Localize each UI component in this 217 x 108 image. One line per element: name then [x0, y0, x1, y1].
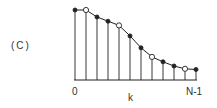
filled-sample-marker: [95, 15, 99, 19]
filled-sample-marker: [172, 64, 176, 68]
x-axis-start-label: 0: [72, 87, 78, 97]
open-sample-marker: [182, 66, 187, 71]
open-sample-marker: [149, 54, 154, 59]
filled-sample-marker: [194, 68, 198, 72]
open-sample-marker: [116, 23, 121, 28]
open-sample-marker: [83, 7, 88, 12]
filled-sample-marker: [106, 19, 110, 23]
sequence-stem-plot: [0, 0, 217, 108]
filled-sample-marker: [161, 60, 165, 64]
filled-sample-marker: [73, 8, 77, 12]
x-axis-end-label: N-1: [186, 87, 202, 97]
panel-label: (C): [11, 41, 31, 51]
filled-sample-marker: [128, 34, 132, 38]
x-axis-label: k: [128, 93, 133, 103]
filled-sample-marker: [139, 46, 143, 50]
envelope-curve: [75, 10, 196, 70]
